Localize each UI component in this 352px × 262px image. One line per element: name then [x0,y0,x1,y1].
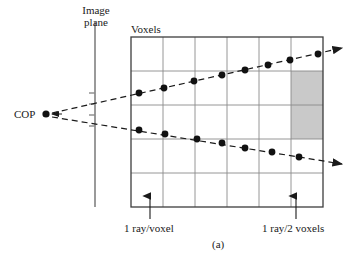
sample-dot [136,90,143,97]
lower-ray-sample-points [136,127,303,161]
sample-dot [287,57,294,64]
sample-dot [265,62,272,69]
one-ray-per-voxel-label: 1 ray/voxel [124,222,174,234]
grid-vertical-lines [163,37,291,207]
sample-dot [136,127,143,134]
voxels-label: Voxels [131,23,161,35]
subfigure-caption: (a) [212,238,224,250]
cop-label: COP [14,108,35,120]
sample-dot [161,85,168,92]
cop-point [42,110,49,117]
sample-dot [219,140,226,147]
sample-dot [194,136,201,143]
sample-dot [296,154,303,161]
sample-dot [269,149,276,156]
sample-dot [191,78,198,85]
sample-dot [242,145,249,152]
sample-dot [219,72,226,79]
sample-dot [242,67,249,74]
sample-dot [315,51,322,58]
one-ray-per-two-voxels-label: 1 ray/2 voxels [262,222,324,234]
figure-container: Image plane Voxels COP 1 ray/voxel 1 ray… [0,0,352,262]
sample-dot [162,131,169,138]
image-plane-label: Image plane [68,4,124,28]
